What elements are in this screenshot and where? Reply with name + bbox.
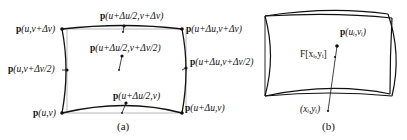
label-center: p(u+Δu/2,v+Δv/2) bbox=[90, 43, 161, 54]
label-right-mid: p(u+Δu,v+Δv/2) bbox=[190, 57, 253, 68]
caption-a: (a) bbox=[117, 120, 129, 132]
diagram-canvas bbox=[0, 0, 407, 140]
label-top-right: p(u+Δu,v+Δv) bbox=[186, 24, 242, 35]
label-bottom-mid: p(u+Δu/2,v) bbox=[113, 91, 160, 102]
label-bottom-right: p(u+Δu,v) bbox=[185, 103, 225, 114]
label-mapped-point: F[xᵢ,yᵢ] bbox=[300, 49, 327, 60]
label-bottom-left: p(u,v) bbox=[33, 108, 56, 119]
label-image-point: (xᵢ,yᵢ) bbox=[300, 104, 320, 115]
panel-b-surface bbox=[265, 10, 396, 96]
label-top-left: p(u,v+Δv) bbox=[16, 24, 55, 35]
label-surface-point: p(uᵢ,vᵢ) bbox=[340, 27, 366, 38]
panel-b-projection-line bbox=[328, 46, 337, 111]
label-left-mid: p(u,v+Δv/2) bbox=[8, 64, 55, 75]
caption-b: (b) bbox=[322, 120, 335, 132]
label-top-mid: p(u+Δu/2,v+Δv) bbox=[100, 11, 163, 22]
